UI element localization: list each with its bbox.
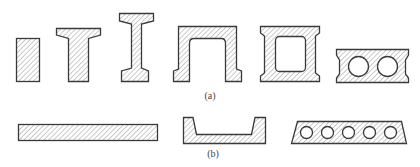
t-section: [57, 29, 101, 82]
part-a-group: (a): [17, 14, 409, 103]
i-section: [120, 14, 154, 82]
box-section-void: [276, 37, 306, 72]
circular-void-2: [322, 127, 334, 139]
circular-void-1: [301, 127, 313, 139]
circular-void-1: [349, 57, 369, 77]
inverted-channel-section: [174, 27, 242, 82]
circular-void-2: [378, 57, 398, 77]
circular-void-4: [364, 127, 376, 139]
caption-b: (b): [207, 148, 219, 160]
part-b-group: (b): [19, 118, 407, 161]
flat-slab-section: [19, 125, 158, 141]
rectangular-section: [17, 39, 40, 82]
circular-void-5: [385, 127, 397, 139]
circular-void-3: [343, 127, 355, 139]
trough-slab-section: [184, 118, 266, 144]
cross-section-diagram: (a) (b): [0, 0, 420, 167]
caption-a: (a): [204, 90, 215, 102]
